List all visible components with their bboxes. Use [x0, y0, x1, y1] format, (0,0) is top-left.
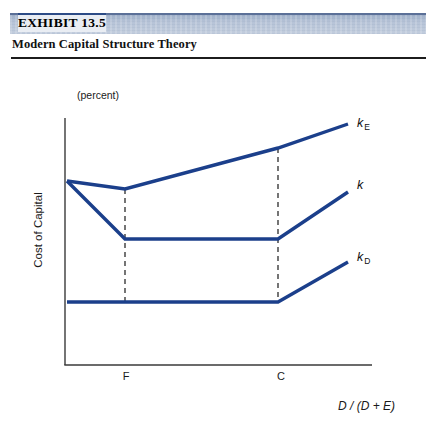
exhibit-page: EXHIBIT 13.5 Modern Capital Structure Th… [0, 0, 436, 427]
x-axis-title: D / (D + E) [338, 399, 395, 413]
y-axis-title: Cost of Capital [32, 175, 44, 285]
curve-cost-of-debt [67, 262, 348, 302]
curve-label-k-symbol: k [357, 178, 363, 192]
curve-label-ke-symbol: k [357, 116, 363, 130]
exhibit-badge: EXHIBIT 13.5 [18, 13, 106, 32]
exhibit-title: Modern Capital Structure Theory [12, 37, 197, 52]
x-tick-f: F [116, 370, 136, 382]
curve-label-kd-symbol: k [357, 250, 363, 264]
curve-label-kd-subscript: D [364, 256, 370, 266]
capital-structure-chart [0, 62, 436, 427]
curve-label-k: k [357, 178, 363, 192]
curve-wacc [67, 181, 348, 239]
curve-label-kd: kD [357, 250, 370, 264]
curve-cost-of-equity [67, 124, 348, 189]
chart-container: (percent) Cost of Capital F C D / (D + E… [0, 62, 436, 427]
percent-note: (percent) [77, 89, 119, 101]
x-tick-c: C [271, 370, 291, 382]
exhibit-badge-label: EXHIBIT 13.5 [18, 16, 106, 31]
curve-label-ke: kE [357, 116, 369, 130]
curve-label-ke-subscript: E [364, 122, 370, 132]
header-divider [11, 57, 426, 59]
